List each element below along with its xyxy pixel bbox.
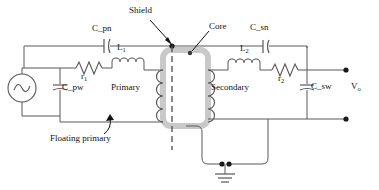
label-inductor-l2: L2 [240, 44, 249, 53]
wire-primary-top-b [102, 62, 112, 68]
circuit-diagram: Shield Core C_pn C_sn L1 L2 r1 r2 C_pw C… [0, 0, 379, 190]
inductor-l2-shape [228, 59, 260, 63]
ac-source-sine [14, 84, 30, 91]
transformer-core-shape [163, 50, 208, 126]
label-shield: Shield [129, 6, 152, 15]
label-floating-primary: Floating primary [50, 134, 111, 143]
shield-leader-line [150, 20, 169, 41]
inductor-l1-shape [112, 58, 144, 62]
label-l2-sub: 2 [246, 47, 249, 54]
output-terminal-bottom [343, 116, 348, 121]
wire-secondary-top-b [260, 63, 272, 70]
label-secondary: Secondary [211, 83, 249, 92]
label-c-sw: C_sw [311, 82, 332, 91]
label-l1-sub: 1 [123, 46, 126, 53]
resistor-r2-shape [272, 64, 298, 76]
label-vo-base: V [351, 81, 358, 91]
label-core: Core [209, 22, 227, 31]
label-vo-sub: o [358, 85, 361, 92]
ground-junction-dot-left [219, 161, 224, 166]
circuit-canvas [0, 0, 379, 190]
capacitor-c-sn-plate-right [268, 40, 270, 53]
label-c-pn: C_pn [92, 24, 112, 33]
floating-primary-arrow-head [106, 114, 114, 121]
label-l2-base: L [240, 43, 246, 53]
core-pointer-dot [188, 51, 192, 55]
label-c-sn: C_sn [250, 23, 269, 32]
label-c-pw: C_pw [62, 83, 84, 92]
label-inductor-l1: L1 [117, 43, 126, 52]
wire-ground-left-branch [186, 126, 202, 158]
wire-ground-right-branch [228, 119, 268, 164]
label-l1-base: L [117, 42, 123, 52]
label-primary: Primary [111, 83, 140, 92]
resistor-r1-shape [76, 62, 102, 74]
label-resistor-r1: r1 [81, 72, 87, 81]
ground-junction-dot-right [226, 161, 231, 166]
label-r1-sub: 1 [84, 75, 87, 82]
label-resistor-r2: r2 [278, 74, 284, 83]
wire-ground-left-foot [202, 158, 222, 164]
label-output-voltage: Vo [351, 82, 361, 91]
wire-top-right [269, 46, 307, 48]
capacitor-c-pn-plate-right [109, 39, 111, 53]
wire-source-top [22, 68, 60, 74]
label-r2-sub: 2 [281, 77, 284, 84]
wire-source-bottom [22, 102, 60, 116]
output-terminal-top [343, 67, 348, 72]
